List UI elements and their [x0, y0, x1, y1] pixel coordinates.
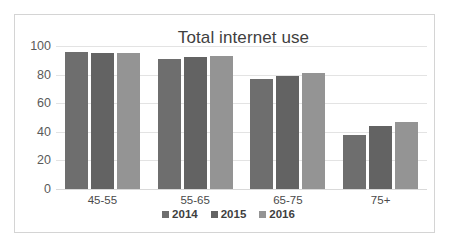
- legend-swatch-icon: [162, 211, 169, 218]
- plot-area: [56, 46, 427, 189]
- gridline: [56, 189, 427, 190]
- x-axis-tick-label: 75+: [334, 194, 427, 206]
- y-axis-tick-label: 40: [15, 126, 51, 139]
- bar[interactable]: [117, 53, 140, 189]
- x-axis: 45-5555-6565-7575+: [56, 194, 427, 206]
- bar[interactable]: [343, 135, 366, 189]
- bar[interactable]: [210, 56, 233, 189]
- bar[interactable]: [276, 76, 299, 189]
- y-axis-tick-label: 60: [15, 97, 51, 110]
- legend-entry[interactable]: 2014: [162, 209, 198, 221]
- legend-label: 2015: [221, 209, 247, 221]
- bar[interactable]: [91, 53, 114, 189]
- bar-group: [334, 46, 427, 189]
- bar-group: [56, 46, 149, 189]
- x-axis-tick-label: 45-55: [56, 194, 149, 206]
- y-axis: 020406080100: [15, 46, 51, 189]
- legend-label: 2014: [172, 209, 198, 221]
- bar[interactable]: [158, 59, 181, 189]
- bar[interactable]: [369, 126, 392, 189]
- bar-groups: [56, 46, 427, 189]
- chart-legend: 201420152016: [15, 209, 434, 221]
- y-axis-tick-label: 80: [15, 68, 51, 81]
- y-axis-tick-label: 20: [15, 154, 51, 167]
- legend-swatch-icon: [259, 211, 266, 218]
- legend-swatch-icon: [211, 211, 218, 218]
- y-axis-tick-label: 100: [15, 40, 51, 53]
- bar[interactable]: [65, 52, 88, 189]
- chart-frame: Total internet use 020406080100 45-5555-…: [14, 14, 435, 233]
- y-axis-tick-label: 0: [15, 183, 51, 196]
- bar[interactable]: [184, 57, 207, 189]
- bar-group: [242, 46, 335, 189]
- legend-entry[interactable]: 2016: [259, 209, 295, 221]
- bar[interactable]: [250, 79, 273, 189]
- bar[interactable]: [395, 122, 418, 189]
- bar-group: [149, 46, 242, 189]
- legend-label: 2016: [269, 209, 295, 221]
- chart-title: Total internet use: [15, 28, 434, 48]
- x-axis-tick-label: 65-75: [242, 194, 335, 206]
- bar[interactable]: [302, 73, 325, 189]
- x-axis-tick-label: 55-65: [149, 194, 242, 206]
- legend-entry[interactable]: 2015: [211, 209, 247, 221]
